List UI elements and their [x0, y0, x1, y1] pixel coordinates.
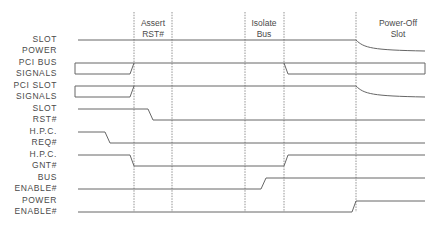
power-enable-label: POWER ENABLE#	[15, 195, 57, 217]
power-off-slot-phase-label: Power-Off Slot	[368, 18, 428, 40]
hpc-req-waveform	[78, 132, 425, 143]
hpc-req-label: H.P.C. REQ#	[29, 126, 57, 148]
slot-power-waveform	[78, 40, 425, 51]
signal-waveforms	[75, 40, 425, 212]
hpc-gnt-waveform	[78, 155, 425, 166]
bus-enable-label: BUS ENABLE#	[15, 172, 57, 194]
hpc-gnt-label: H.P.C. GNT#	[29, 149, 57, 171]
pci-slot-signals-waveform	[75, 86, 425, 97]
pci-bus-signals-label: PCI BUS SIGNALS	[16, 57, 57, 79]
slot-power-label: SLOT POWER	[22, 34, 57, 56]
power-enable-waveform	[78, 201, 425, 212]
pci-slot-signals-label: PCI SLOT SIGNALS	[13, 80, 57, 102]
phase-markers	[134, 12, 356, 212]
bus-enable-waveform	[78, 178, 425, 189]
isolate-bus-phase-label: Isolate Bus	[234, 18, 294, 40]
slot-rst-waveform	[78, 109, 425, 120]
pci-bus-signals-waveform	[75, 63, 425, 74]
assert-rst-phase-label: Assert RST#	[123, 18, 183, 40]
slot-rst-label: SLOT RST#	[32, 103, 57, 125]
